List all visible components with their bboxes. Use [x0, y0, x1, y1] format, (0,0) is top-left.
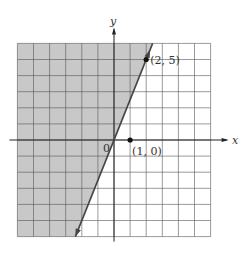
data-point: [128, 137, 133, 142]
inequality-graph: (2, 5)(1, 0) x y 0: [0, 0, 249, 253]
line-arrow-bottom-icon: [75, 228, 81, 236]
y-axis-arrow-icon: [112, 27, 116, 34]
origin-label: 0: [103, 142, 110, 155]
data-point: [144, 57, 149, 62]
point-label: (2, 5): [150, 54, 180, 67]
y-axis-label: y: [109, 15, 117, 28]
x-axis-arrow-icon: [222, 138, 229, 142]
point-label: (1, 0): [132, 145, 162, 158]
x-axis-label: x: [232, 134, 239, 147]
